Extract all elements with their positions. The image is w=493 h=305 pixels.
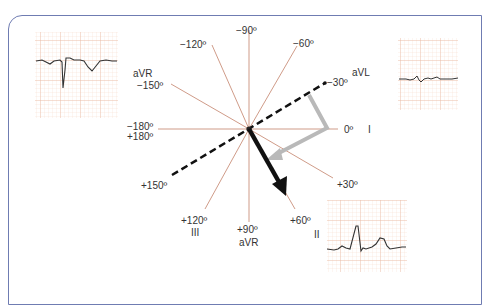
label-plus-90: +90º — [237, 224, 258, 235]
label-plus-30: +30º — [337, 179, 358, 190]
lead-avr-top: aVR — [133, 68, 152, 79]
label-minus-60: −60º — [293, 38, 314, 49]
label-plus-180: +180º — [127, 131, 154, 142]
axis-spokes — [158, 30, 338, 222]
label-plus-120: +120º — [181, 215, 208, 226]
lead-ii: II — [314, 229, 320, 240]
label-plus-150: +150º — [141, 180, 168, 191]
lead-iii: III — [191, 227, 199, 238]
label-minus-30: −30º — [327, 77, 348, 88]
label-0: 0º — [344, 124, 354, 135]
lead-i: I — [368, 124, 371, 135]
lead-avr-bottom: aVR — [239, 237, 258, 248]
lead-avl: aVL — [352, 67, 370, 78]
ecg-strip-avl — [398, 38, 458, 110]
result-vector-arrow — [249, 129, 287, 196]
ecg-strip-avr — [35, 32, 118, 118]
label-minus-120: −120º — [180, 39, 207, 50]
label-minus-90: −90º — [236, 25, 257, 36]
label-plus-60: +60º — [290, 215, 311, 226]
ecg-strip-ii — [327, 200, 407, 272]
label-minus-150: −150º — [137, 80, 164, 91]
construction-vector — [266, 95, 327, 160]
